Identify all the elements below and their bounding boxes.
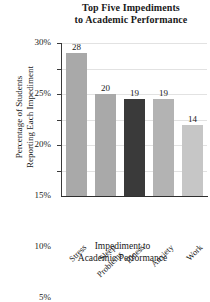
bar-value-label: 19 [130, 89, 139, 98]
bar[interactable]: 28 [66, 53, 87, 196]
y-axis-tick-label: 30% [35, 38, 52, 47]
bar-value-label: 28 [72, 43, 81, 52]
bar-value-label: 19 [159, 89, 168, 98]
bar[interactable]: 20 [95, 94, 116, 196]
plot-inner: 5%10%15%20%25%30% 2820191914 [62, 43, 207, 196]
y-axis-label-line-2: Reporting Each Impediment [25, 42, 36, 192]
x-axis-label-line-2: Academic Performance [40, 252, 205, 264]
bar[interactable]: 19 [124, 99, 145, 196]
gridline [62, 43, 207, 44]
y-axis-tick-label: 25% [35, 89, 52, 98]
x-axis-label: Impediment to Academic Performance [40, 240, 205, 264]
y-axis-tick-label: 15% [35, 191, 52, 200]
chart-title-line-1: Top Five Impediments [55, 2, 207, 14]
y-axis-label: Percentage of Students Reporting Each Im… [14, 42, 38, 192]
y-axis-tick-label: 20% [35, 140, 52, 149]
y-axis-line [61, 43, 62, 197]
bar-value-label: 20 [101, 84, 110, 93]
y-axis-tick-label: 5% [39, 293, 51, 302]
chart-title-line-2: to Academic Performance [55, 14, 207, 26]
bar[interactable]: 14 [182, 125, 203, 196]
x-axis-label-line-1: Impediment to [40, 240, 205, 252]
y-axis-label-line-1: Percentage of Students [14, 42, 25, 192]
plot-area: 5%10%15%20%25%30% 2820191914 StressSleep… [62, 43, 207, 196]
chart-title: Top Five Impediments to Academic Perform… [55, 2, 207, 25]
x-axis-line [61, 196, 208, 197]
bar[interactable]: 19 [153, 99, 174, 196]
bar-value-label: 14 [188, 115, 197, 124]
